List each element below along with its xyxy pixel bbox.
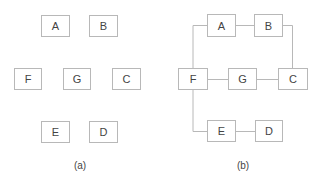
node-label: D — [100, 126, 108, 138]
edge-f-a — [193, 26, 207, 69]
node-a: A — [41, 15, 70, 37]
node-label: F — [25, 73, 32, 85]
edge-f-e — [193, 90, 207, 132]
node-f: F — [178, 68, 208, 90]
node-label: G — [238, 73, 247, 85]
node-label: A — [218, 20, 225, 32]
node-g: G — [63, 68, 91, 90]
node-e: E — [41, 121, 70, 143]
node-label: B — [100, 20, 107, 32]
node-label: C — [289, 73, 297, 85]
edge-b-c — [283, 26, 293, 69]
panel-a-caption: (a) — [74, 160, 86, 171]
node-e: E — [207, 120, 236, 142]
node-label: C — [123, 73, 131, 85]
node-d: D — [89, 121, 118, 143]
node-label: A — [52, 20, 59, 32]
node-label: F — [190, 73, 197, 85]
node-label: G — [73, 73, 82, 85]
node-g: G — [228, 68, 257, 90]
node-label: E — [52, 126, 59, 138]
panel-b-caption: (b) — [237, 160, 249, 171]
diagram-canvas: A B F G C E D (a) A B F G C E D (b) — [0, 0, 322, 179]
node-label: D — [265, 125, 273, 137]
node-f: F — [14, 68, 42, 90]
node-c: C — [278, 68, 308, 90]
node-a: A — [207, 14, 236, 37]
node-c: C — [112, 68, 141, 90]
node-b: B — [89, 15, 118, 37]
node-d: D — [255, 120, 283, 142]
node-label: E — [218, 125, 225, 137]
node-b: B — [254, 14, 283, 37]
node-label: B — [265, 20, 272, 32]
